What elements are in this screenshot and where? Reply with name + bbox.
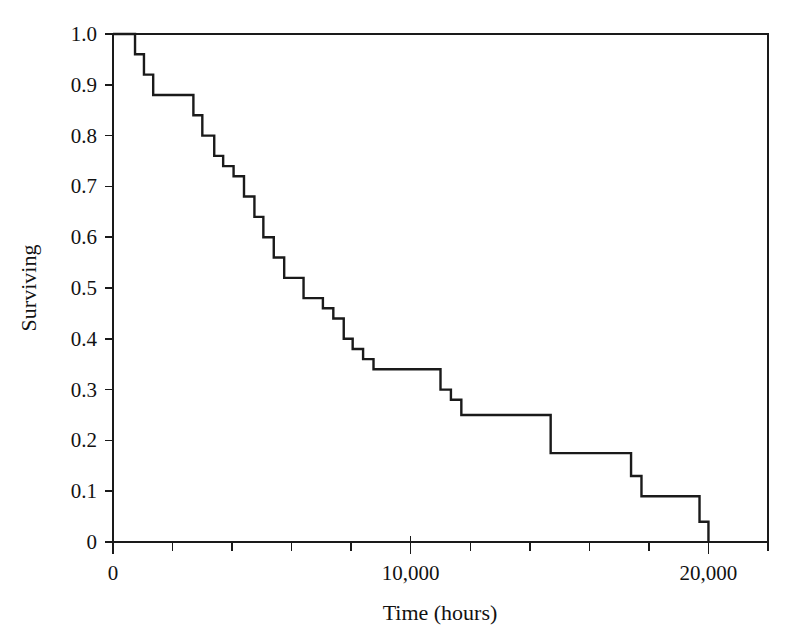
x-tick-label: 10,000 <box>382 561 440 585</box>
y-tick-label: 1.0 <box>71 22 97 46</box>
y-axis-title: Surviving <box>16 245 41 332</box>
y-tick-label: 0.7 <box>71 174 97 198</box>
y-tick-label: 0.1 <box>71 479 97 503</box>
x-axis-title: Time (hours) <box>383 600 498 625</box>
x-tick-label: 20,000 <box>680 561 738 585</box>
y-tick-label: 0.6 <box>71 225 97 249</box>
x-tick-label: 0 <box>108 561 119 585</box>
y-tick-label: 0.5 <box>71 276 97 300</box>
y-tick-label: 0.8 <box>71 124 97 148</box>
y-tick-label: 0.4 <box>71 327 98 351</box>
y-tick-label: 0 <box>87 530 98 554</box>
y-tick-label: 0.2 <box>71 428 97 452</box>
survival-chart: 00.10.20.30.40.50.60.70.80.91.0 010,0002… <box>0 0 804 638</box>
y-tick-label: 0.3 <box>71 378 97 402</box>
y-tick-label: 0.9 <box>71 73 97 97</box>
